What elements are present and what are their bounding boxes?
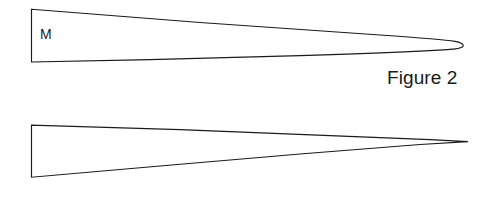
wedge-n-shape [0,97,482,197]
diagram-canvas: M Figure 2 N Figure 3 [0,0,482,197]
figure-2-caption: Figure 2 [387,68,458,87]
figure-3-group: N Figure 3 [0,97,482,197]
figure-2-group: M Figure 2 [0,0,482,97]
wedge-m-label: M [40,27,52,41]
